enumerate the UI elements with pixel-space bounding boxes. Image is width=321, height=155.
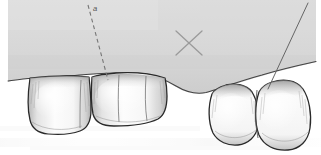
scan-haze-overlay: [0, 0, 321, 155]
dental-illustration-figure: a: [0, 0, 321, 155]
illustration-canvas: a: [0, 0, 321, 155]
